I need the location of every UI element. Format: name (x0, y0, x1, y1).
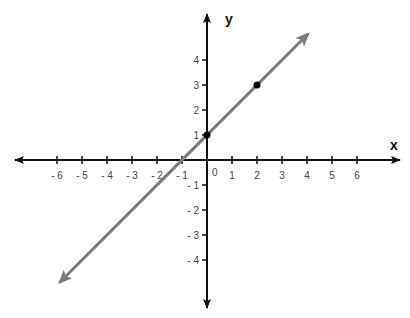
x-tick-label: - 6 (51, 170, 63, 181)
x-tick-label: 5 (329, 170, 335, 181)
x-tick-label: 6 (354, 170, 360, 181)
x-tick-label: 3 (279, 170, 285, 181)
x-tick-label: - 3 (126, 170, 138, 181)
y-tick-label: 2 (193, 105, 199, 116)
axes (15, 14, 400, 308)
y-tick-label: - 3 (187, 230, 199, 241)
y-tick-label: - 2 (187, 205, 199, 216)
y-tick-label: 1 (193, 130, 199, 141)
y-tick-label: - 1 (187, 180, 199, 191)
y-tick-label: 4 (193, 55, 199, 66)
x-axis-label: x (390, 137, 398, 153)
line-series-upper (184, 34, 308, 158)
x-tick-label: - 5 (76, 170, 88, 181)
x-tick-label: 1 (229, 170, 235, 181)
x-tick-label: 4 (304, 170, 310, 181)
line-series (60, 34, 309, 283)
x-tick-label: - 4 (101, 170, 113, 181)
origin-label: 0 (212, 167, 218, 178)
y-tick-label: 3 (193, 80, 199, 91)
coordinate-plane: - 6- 5- 4- 3- 2- 11234564321- 1- 2- 3- 4… (0, 0, 410, 318)
data-point (204, 132, 211, 139)
data-point (254, 82, 261, 89)
y-axis-label: y (225, 11, 233, 27)
x-tick-label: 2 (254, 170, 260, 181)
y-tick-label: - 4 (187, 255, 199, 266)
